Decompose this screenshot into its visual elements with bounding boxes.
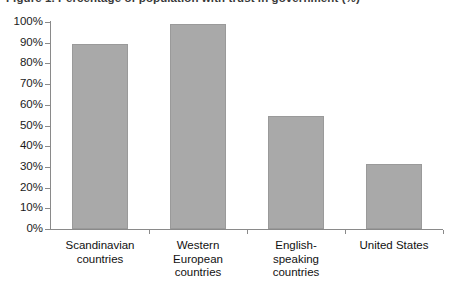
x-axis-category-label-line: speaking — [247, 253, 345, 267]
y-axis-tick — [45, 43, 50, 44]
bar — [170, 24, 226, 229]
x-axis-category-label-line: European — [149, 253, 247, 267]
y-axis-tick-label: 100% — [0, 15, 43, 27]
y-axis-tick-label: 10% — [0, 201, 43, 213]
x-axis-category-label: United States — [345, 239, 443, 253]
bar — [366, 164, 422, 229]
y-axis-tick — [45, 63, 50, 64]
figure-caption-text: Figure 1. Percentage of population with … — [6, 0, 360, 4]
x-axis-category-label-line: Western — [149, 239, 247, 253]
bar-chart: 0%10%20%30%40%50%60%70%80%90%100% Scandi… — [0, 7, 449, 284]
y-axis-tick — [45, 146, 50, 147]
y-axis-tick — [45, 167, 50, 168]
y-axis-tick — [45, 22, 50, 23]
bar — [72, 44, 128, 229]
x-axis-separator-tick — [345, 230, 346, 234]
y-axis-line — [50, 21, 51, 230]
y-axis-tick-label: 30% — [0, 160, 43, 172]
y-axis-tick-label: 70% — [0, 77, 43, 89]
y-axis-tick-label: 50% — [0, 119, 43, 131]
x-axis-category-label-line: English- — [247, 239, 345, 253]
x-axis-category-label-line: countries — [149, 266, 247, 280]
x-axis-category-label-line: Scandinavian — [51, 239, 149, 253]
y-axis-tick-label: 0% — [0, 222, 43, 234]
y-axis-tick — [45, 84, 50, 85]
y-axis-tick-label: 20% — [0, 181, 43, 193]
x-axis-category-label: English-speakingcountries — [247, 239, 345, 280]
y-axis-tick-label: 80% — [0, 56, 43, 68]
figure-caption-clipped: Figure 1. Percentage of population with … — [0, 0, 449, 7]
y-axis-tick — [45, 105, 50, 106]
x-axis-category-label-line: countries — [247, 266, 345, 280]
x-axis-category-label: WesternEuropeancountries — [149, 239, 247, 280]
y-axis-tick — [45, 188, 50, 189]
y-axis-tick-label: 90% — [0, 36, 43, 48]
y-axis-tick — [45, 126, 50, 127]
y-axis-tick — [45, 229, 50, 230]
x-axis-separator-tick — [149, 230, 150, 234]
bar — [268, 116, 324, 229]
x-axis-separator-tick — [247, 230, 248, 234]
x-axis-separator-tick — [443, 230, 444, 234]
y-axis-tick-label: 60% — [0, 98, 43, 110]
x-axis-category-label-line: United States — [345, 239, 443, 253]
y-axis-tick — [45, 208, 50, 209]
x-axis-category-label: Scandinaviancountries — [51, 239, 149, 266]
x-axis-category-label-line: countries — [51, 253, 149, 267]
y-axis-tick-label: 40% — [0, 139, 43, 151]
